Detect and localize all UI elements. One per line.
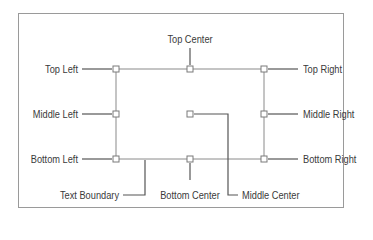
- label-top-center: Top Center: [155, 33, 225, 45]
- leader-text-boundary: [123, 160, 145, 195]
- handle-bottom-center[interactable]: [187, 156, 193, 162]
- label-bottom-center: Bottom Center: [150, 189, 229, 201]
- label-middle-left: Middle Left: [9, 108, 78, 120]
- label-middle-right: Middle Right: [303, 108, 354, 120]
- handle-middle-right[interactable]: [261, 111, 267, 117]
- handles: [113, 66, 267, 162]
- handle-top-left[interactable]: [113, 66, 119, 72]
- handle-bottom-right[interactable]: [261, 156, 267, 162]
- leader-middle-center: [194, 114, 238, 195]
- handle-top-center[interactable]: [187, 66, 193, 72]
- label-top-right: Top Right: [303, 63, 342, 75]
- handle-middle-center[interactable]: [187, 111, 193, 117]
- handle-bottom-left[interactable]: [113, 156, 119, 162]
- label-bottom-right: Bottom Right: [303, 153, 356, 165]
- handle-top-right[interactable]: [261, 66, 267, 72]
- label-middle-center: Middle Center: [242, 189, 300, 201]
- handle-middle-left[interactable]: [113, 111, 119, 117]
- label-top-left: Top Left: [9, 63, 78, 75]
- label-text-boundary: Text Boundary: [32, 189, 119, 201]
- label-bottom-left: Bottom Left: [9, 153, 78, 165]
